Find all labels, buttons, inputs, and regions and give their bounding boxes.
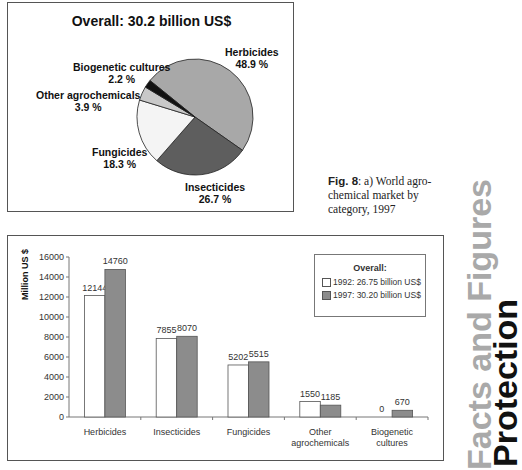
bar-value-label: 7855 (156, 325, 176, 335)
y-tick-label: 10000 (39, 312, 64, 322)
bar-1997 (105, 269, 126, 417)
slice-name: Other agrochemicals (36, 89, 140, 101)
pie-label-insecticides: Insecticides 26.7 % (185, 181, 245, 205)
x-category-label: agrochemicals (291, 438, 350, 448)
slice-name: Biogenetic cultures (73, 61, 170, 73)
pie-label-herbicides: Herbicides 48.9 % (225, 46, 279, 70)
bar-1992 (228, 365, 249, 417)
x-category-label: Other (309, 427, 332, 437)
slice-value: 3.9 % (36, 101, 140, 113)
pie-label-biogenetic-cultures: Biogenetic cultures 2.2 % (73, 61, 170, 85)
y-tick-label: 12000 (39, 292, 64, 302)
x-category-label: Insecticides (153, 427, 201, 437)
pie-label-fungicides: Fungicides 18.3 % (92, 146, 147, 170)
y-tick-label: 6000 (44, 352, 64, 362)
bar-1992 (300, 402, 321, 418)
bar-value-label: 0 (379, 404, 384, 414)
figure-caption: Fig. 8: a) World agro-chemical market by… (328, 174, 438, 216)
slice-value: 26.7 % (185, 193, 245, 205)
y-tick-label: 8000 (44, 332, 64, 342)
legend-item-1997: 1997: 30.20 billion US$ (322, 290, 425, 300)
y-tick-label: 0 (59, 412, 64, 422)
pie-chart-panel: Overall: 30.2 billion US$ Herbicides 48.… (7, 2, 294, 212)
figure-label: Fig. 8 (328, 175, 358, 187)
bar-1992 (156, 338, 177, 417)
slice-value: 18.3 % (92, 158, 147, 170)
bar-1997 (249, 362, 270, 417)
slice-name: Fungicides (92, 146, 147, 158)
y-axis-label: Million US $ (20, 249, 30, 300)
x-category-label: cultures (376, 438, 408, 448)
y-tick-label: 16000 (39, 252, 64, 262)
bar-value-label: 5202 (228, 352, 248, 362)
y-tick-label: 4000 (44, 372, 64, 382)
y-tick-label: 2000 (44, 392, 64, 402)
bar-value-label: 8070 (177, 323, 197, 333)
y-tick-label: 14000 (39, 272, 64, 282)
x-category-label: Herbicides (84, 427, 127, 437)
bar-value-label: 14760 (103, 256, 128, 266)
side-title: Facts and Figures Protection (466, 179, 518, 467)
slice-value: 48.9 % (225, 58, 279, 70)
x-category-label: Fungicides (227, 427, 271, 437)
slice-name: Insecticides (185, 181, 245, 193)
bar-value-label: 670 (395, 397, 410, 407)
legend-item-1992: 1992: 26.75 billion US$ (322, 277, 425, 287)
pie-label-other-agrochemicals: Other agrochemicals 3.9 % (36, 89, 140, 113)
slice-value: 2.2 % (73, 73, 170, 85)
bar-1992 (84, 296, 105, 417)
bar-chart-panel: 0200040006000800010000120001400016000121… (7, 235, 444, 461)
bar-1997 (392, 410, 413, 417)
legend-swatch-1997 (322, 291, 331, 300)
bar-value-label: 1185 (321, 392, 340, 402)
legend-label-1997: 1997: 30.20 billion US$ (333, 290, 421, 300)
legend-label-1992: 1992: 26.75 billion US$ (333, 277, 421, 287)
chart-legend: Overall: 1992: 26.75 billion US$ 1997: 3… (314, 254, 426, 317)
bar-1997 (320, 405, 341, 417)
bar-value-label: 12144 (82, 283, 107, 293)
legend-title: Overall: (315, 263, 425, 273)
bar-value-label: 5515 (249, 349, 269, 359)
x-category-label: Biogenetic (371, 427, 414, 437)
slice-name: Herbicides (225, 46, 279, 58)
bar-value-label: 1550 (300, 389, 320, 399)
bar-1997 (177, 336, 198, 417)
legend-swatch-1992 (322, 278, 331, 287)
